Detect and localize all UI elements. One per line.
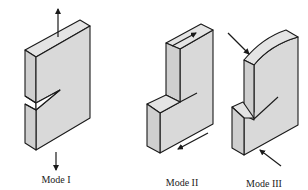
mode-3-arrow-bottom-icon [260,150,281,166]
mode-1-upper-side-face [25,50,36,103]
fracture-modes-diagram [0,0,308,190]
mode-3-specimen [232,30,298,155]
mode-2-upper-side-face [166,43,180,102]
mode-1-lower-side-face [25,104,36,150]
mode-2-label: Mode II [166,177,199,188]
mode-3-label: Mode III [246,178,282,189]
fracture-modes-figure: Mode I Mode II Mode III [0,0,308,190]
mode-1-label: Mode I [41,174,70,185]
mode-2-lower-side-face [147,104,160,153]
mode-1-specimen [25,20,90,150]
mode-2-specimen [147,24,213,153]
mode-3-arrow-top-icon [228,33,249,54]
